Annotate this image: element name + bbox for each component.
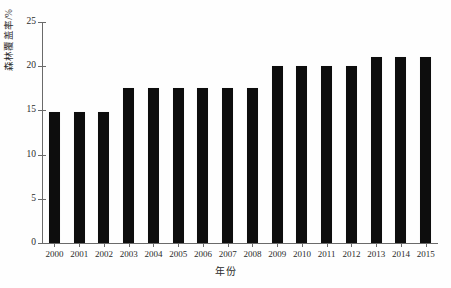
- x-tick-mark: [54, 243, 55, 247]
- x-axis-title: 年份: [0, 263, 451, 278]
- bar-2006: [197, 88, 208, 243]
- y-tick-mark: [38, 155, 46, 156]
- y-tick-label: 25: [27, 16, 37, 26]
- x-tick-mark: [203, 243, 204, 247]
- bar-2009: [272, 66, 283, 243]
- x-tick-mark: [153, 243, 154, 247]
- y-tick-20: 20: [42, 66, 50, 67]
- x-tick-mark: [302, 243, 303, 247]
- bar-2012: [346, 66, 357, 243]
- bar-2001: [74, 112, 85, 243]
- y-axis-title: 森林覆盖率/%: [2, 0, 16, 102]
- bar-2002: [98, 112, 109, 243]
- x-tick-mark: [252, 243, 253, 247]
- bar-chart-figure: 森林覆盖率/% 0510152025 200020012002200320042…: [0, 0, 451, 288]
- plot-area: 0510152025 20002001200220032004200520062…: [42, 22, 438, 243]
- y-tick-label: 15: [27, 104, 37, 114]
- y-axis-line: [42, 22, 43, 244]
- x-tick-mark: [79, 243, 80, 247]
- bar-2004: [148, 88, 159, 243]
- bar-2003: [123, 88, 134, 243]
- y-tick-mark: [38, 66, 46, 67]
- y-tick-label: 5: [31, 193, 36, 203]
- bar-2011: [321, 66, 332, 243]
- y-tick-mark: [38, 110, 46, 111]
- y-tick-label: 0: [31, 237, 36, 247]
- x-tick-mark: [228, 243, 229, 247]
- x-tick-mark: [277, 243, 278, 247]
- bar-2005: [173, 88, 184, 243]
- x-axis-line: [42, 243, 438, 244]
- x-tick-mark: [129, 243, 130, 247]
- y-tick-0: 0: [42, 243, 50, 244]
- y-tick-25: 25: [42, 22, 50, 23]
- x-tick-label-2015: 2015: [411, 249, 441, 259]
- x-tick-mark: [376, 243, 377, 247]
- y-tick-label: 20: [27, 60, 37, 70]
- bar-2014: [395, 57, 406, 243]
- x-tick-mark: [351, 243, 352, 247]
- x-tick-mark: [104, 243, 105, 247]
- bar-2013: [371, 57, 382, 243]
- bar-2007: [222, 88, 233, 243]
- bar-2015: [420, 57, 431, 243]
- y-tick-mark: [38, 22, 46, 23]
- bar-2000: [49, 112, 60, 243]
- y-tick-label: 10: [27, 149, 37, 159]
- x-tick-mark: [178, 243, 179, 247]
- bar-2010: [296, 66, 307, 243]
- x-tick-mark: [327, 243, 328, 247]
- y-tick-mark: [38, 199, 46, 200]
- x-tick-mark: [401, 243, 402, 247]
- x-tick-mark: [426, 243, 427, 247]
- bar-2008: [247, 88, 258, 243]
- y-tick-mark: [38, 243, 46, 244]
